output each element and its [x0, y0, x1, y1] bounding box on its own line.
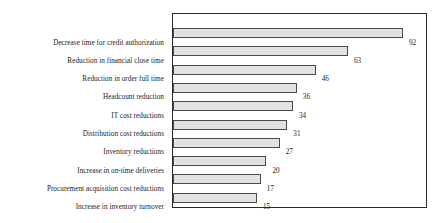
bar — [173, 156, 266, 166]
bar — [173, 193, 257, 203]
bar — [173, 46, 348, 56]
plot-area — [172, 13, 427, 208]
category-label: Increase in inventory turnover — [0, 203, 164, 212]
category-label: Procurement acquisition cost reductions — [0, 185, 164, 194]
bars-container — [173, 14, 426, 207]
category-label: IT cost reductions — [0, 112, 164, 121]
category-label: Distribution cost reductions — [0, 130, 164, 139]
category-label: Headcount reduction — [0, 93, 164, 102]
category-axis: Decrease time for credit authorizationRe… — [0, 13, 168, 209]
bar — [173, 174, 261, 184]
bar — [173, 101, 293, 111]
bar — [173, 65, 316, 75]
category-label: Increase in on-time deliveries — [0, 167, 164, 176]
category-label: Reduction in order full time — [0, 75, 164, 84]
category-label: Decrease time for credit authorization — [0, 39, 164, 48]
bar — [173, 28, 403, 38]
bar — [173, 138, 280, 148]
bar — [173, 120, 287, 130]
category-label: Reduction in financial close time — [0, 57, 164, 66]
bar-chart: Decrease time for credit authorizationRe… — [0, 0, 447, 223]
bar — [173, 83, 297, 93]
category-label: Inventory reductions — [0, 148, 164, 157]
